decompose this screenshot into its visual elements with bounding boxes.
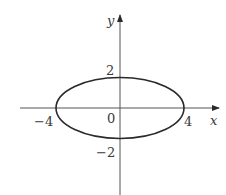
ellipse-diagram: y x 2 −2 −4 4 0 (0, 0, 226, 195)
tick-label-x-neg: −4 (34, 114, 53, 129)
x-axis-label: x (210, 113, 218, 128)
y-axis-label: y (106, 13, 115, 28)
tick-label-x-pos: 4 (184, 114, 192, 129)
tick-label-y-neg: −2 (96, 145, 115, 160)
tick-label-y-pos: 2 (106, 63, 114, 78)
origin-label: 0 (107, 111, 115, 126)
